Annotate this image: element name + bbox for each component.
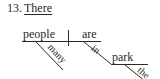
prep-object-word: park [112, 51, 133, 63]
verb-word: are [82, 28, 97, 40]
subject-word: people [23, 28, 55, 40]
